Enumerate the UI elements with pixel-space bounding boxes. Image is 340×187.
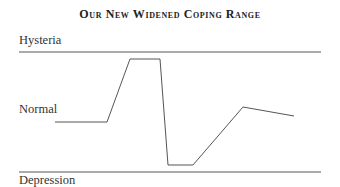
coping-range-diagram xyxy=(0,0,340,187)
mood-curve xyxy=(55,59,294,165)
